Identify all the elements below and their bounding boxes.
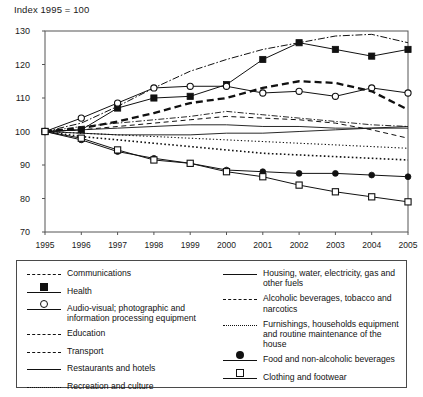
chart-title: Index 1995 = 100 [14, 4, 89, 15]
data-point [151, 157, 157, 163]
data-point [151, 85, 157, 91]
x-axis-tick-1997: 1997 [108, 240, 127, 250]
legend-item[interactable]: Health [27, 286, 213, 299]
legend-swatch-icon [27, 347, 61, 359]
plot-frame [45, 31, 408, 232]
legend-marker-icon [236, 369, 244, 377]
data-point [78, 135, 84, 141]
data-point [187, 93, 193, 99]
legend-item[interactable]: Clothing and footwear [223, 372, 403, 385]
legend-swatch-icon [27, 364, 61, 376]
legend-item[interactable]: Education [27, 328, 213, 341]
x-axis-tick-2001: 2001 [253, 240, 272, 250]
legend-swatch-icon [223, 320, 257, 332]
data-point [78, 115, 84, 121]
data-point [42, 128, 48, 134]
x-axis-tick-2005: 2005 [399, 240, 418, 250]
x-axis-tick-2000: 2000 [217, 240, 236, 250]
legend-column-right: Housing, water, electricity, gas and oth… [223, 268, 403, 389]
data-point [115, 147, 121, 153]
legend-item-label: Education [67, 328, 105, 338]
legend-item-label: Audio-visual; photographic and informati… [67, 303, 213, 324]
data-point [332, 189, 338, 195]
legend-item-label: Food and non-alcoholic beverages [263, 354, 395, 364]
data-point [369, 172, 375, 178]
legend-swatch-icon [27, 304, 61, 316]
legend-item[interactable]: Recreation and culture [27, 381, 213, 394]
data-point [333, 170, 339, 176]
legend-item-label: Clothing and footwear [263, 372, 347, 382]
legend-item-label: Transport [67, 346, 103, 356]
data-point [296, 88, 302, 94]
legend-item[interactable]: Audio-visual; photographic and informati… [27, 303, 213, 324]
data-point [405, 174, 411, 180]
legend-item[interactable]: Transport [27, 346, 213, 359]
legend-item-label: Health [67, 286, 92, 296]
x-axis-tick-2002: 2002 [290, 240, 309, 250]
legend-swatch-icon [27, 269, 61, 281]
legend-item[interactable]: Housing, water, electricity, gas and oth… [223, 268, 403, 289]
legend-item-label: Restaurants and hotels [67, 363, 155, 373]
data-point [296, 40, 302, 46]
legend-item-label: Communications [67, 268, 131, 278]
legend-item-label: Housing, water, electricity, gas and oth… [263, 268, 403, 289]
data-point [405, 46, 411, 52]
legend-item[interactable]: Alcoholic beverages, tobacco and narcoti… [223, 293, 403, 314]
data-point [369, 53, 375, 59]
x-axis-tick-2004: 2004 [362, 240, 381, 250]
legend-item-label: Furnishings, households equipment and ro… [263, 319, 403, 350]
legend-swatch-icon [223, 355, 257, 367]
data-point [332, 93, 338, 99]
legend-swatch-icon [223, 294, 257, 306]
legend-marker-icon [40, 300, 48, 308]
x-axis-tick-2003: 2003 [326, 240, 345, 250]
legend-swatch-icon [223, 269, 257, 281]
legend-item[interactable]: Furnishings, households equipment and ro… [223, 319, 403, 350]
legend-item[interactable]: Food and non-alcoholic beverages [223, 354, 403, 367]
x-axis-tick-1999: 1999 [181, 240, 200, 250]
chart-page: Index 1995 = 100 708090100110120130 1995… [0, 0, 423, 397]
x-axis-tick-1995: 1995 [36, 240, 55, 250]
data-point [223, 83, 229, 89]
plot-area: 708090100110120130 199519961997199819992… [0, 22, 423, 252]
data-point [187, 83, 193, 89]
legend-item[interactable]: Communications [27, 268, 213, 281]
chart-canvas [0, 22, 423, 252]
legend-item[interactable]: Restaurants and hotels [27, 363, 213, 376]
data-point [296, 182, 302, 188]
legend-swatch-icon [223, 373, 257, 385]
data-point [296, 170, 302, 176]
legend-swatch-icon [27, 382, 61, 394]
data-point [332, 46, 338, 52]
data-point [260, 90, 266, 96]
x-axis-labels: 1995199619971998199920002001200220032004… [0, 234, 423, 254]
data-point [369, 194, 375, 200]
series-line-11 [45, 132, 408, 202]
legend-column-left: CommunicationsHealthAudio-visual; photog… [27, 268, 213, 397]
data-point [223, 169, 229, 175]
legend-marker-icon [40, 283, 48, 291]
data-point [405, 90, 411, 96]
legend-swatch-icon [27, 329, 61, 341]
legend-item-label: Alcoholic beverages, tobacco and narcoti… [263, 293, 403, 314]
data-point [187, 160, 193, 166]
legend-marker-icon [236, 351, 244, 359]
series-line-8 [45, 116, 408, 138]
data-point [260, 56, 266, 62]
data-point [260, 174, 266, 180]
data-point [405, 199, 411, 205]
data-point [115, 100, 121, 106]
legend-item-label: Recreation and culture [67, 381, 153, 391]
data-point [151, 95, 157, 101]
x-axis-tick-1996: 1996 [72, 240, 91, 250]
x-axis-tick-1998: 1998 [144, 240, 163, 250]
chart-legend: CommunicationsHealthAudio-visual; photog… [16, 260, 407, 388]
legend-swatch-icon [27, 287, 61, 299]
